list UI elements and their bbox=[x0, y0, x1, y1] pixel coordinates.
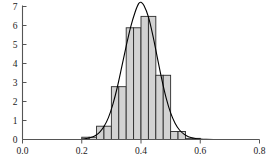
x-tick-label: 0.2 bbox=[76, 146, 88, 156]
x-tick-label: 0.6 bbox=[194, 146, 206, 156]
histogram-bar bbox=[104, 126, 111, 139]
y-axis-ticks: 01234567 bbox=[13, 2, 27, 145]
y-tick-label: 6 bbox=[13, 21, 18, 31]
y-tick-label: 1 bbox=[13, 116, 18, 126]
histogram-bar bbox=[119, 87, 126, 140]
figure-caption bbox=[0, 157, 268, 165]
histogram-bar bbox=[141, 16, 148, 139]
histogram-bar bbox=[156, 75, 163, 139]
x-tick-label: 0.4 bbox=[135, 146, 147, 156]
histogram-chart: 0.00.20.40.60.8 01234567 bbox=[0, 0, 268, 165]
y-tick-label: 7 bbox=[13, 2, 18, 12]
plot-area: 0.00.20.40.60.8 01234567 bbox=[0, 0, 268, 165]
x-tick-label: 0.8 bbox=[254, 146, 266, 156]
histogram-bar bbox=[148, 16, 155, 139]
x-tick-label: 0.0 bbox=[17, 146, 29, 156]
y-tick-label: 4 bbox=[13, 59, 18, 69]
histogram-bar bbox=[126, 28, 133, 140]
histogram-bar bbox=[171, 132, 178, 140]
histogram-bar bbox=[163, 75, 170, 139]
y-tick-label: 3 bbox=[13, 78, 18, 88]
y-tick-label: 2 bbox=[13, 97, 18, 107]
y-tick-label: 5 bbox=[13, 40, 18, 50]
histogram-bar bbox=[134, 28, 141, 140]
histogram-bars bbox=[82, 16, 201, 139]
x-axis-ticks: 0.00.20.40.60.8 bbox=[17, 140, 266, 156]
y-tick-label: 0 bbox=[13, 135, 18, 145]
